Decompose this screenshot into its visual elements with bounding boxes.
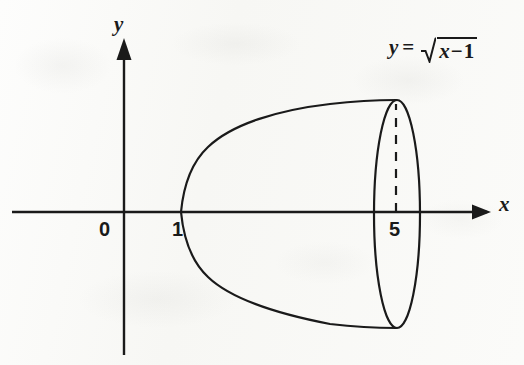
x-tick-label-1: 1 [172, 219, 183, 239]
x-axis-arrowhead [472, 205, 491, 220]
cross-section-disk-ellipse [374, 100, 420, 328]
equation-equals-sign: = [402, 37, 414, 58]
radicand-number: 1 [464, 39, 475, 63]
curve-upper-branch [181, 100, 396, 212]
equation-label: y = x−1 [389, 37, 477, 63]
radicand-operator: − [450, 39, 464, 63]
figure-canvas: y x 0 1 5 y = x−1 [0, 0, 524, 365]
y-axis-arrowhead [117, 38, 132, 60]
x-axis-label: x [499, 194, 510, 215]
radicand-variable: x [439, 39, 450, 63]
x-tick-label-5: 5 [389, 219, 400, 239]
equation-lhs: y [389, 37, 398, 58]
radicand: x−1 [437, 37, 477, 62]
radical-group: x−1 [421, 37, 477, 63]
radical-sign-icon [421, 37, 436, 63]
origin-label: 0 [99, 219, 110, 239]
y-axis-label: y [114, 14, 123, 35]
curve-lower-branch [181, 212, 396, 328]
